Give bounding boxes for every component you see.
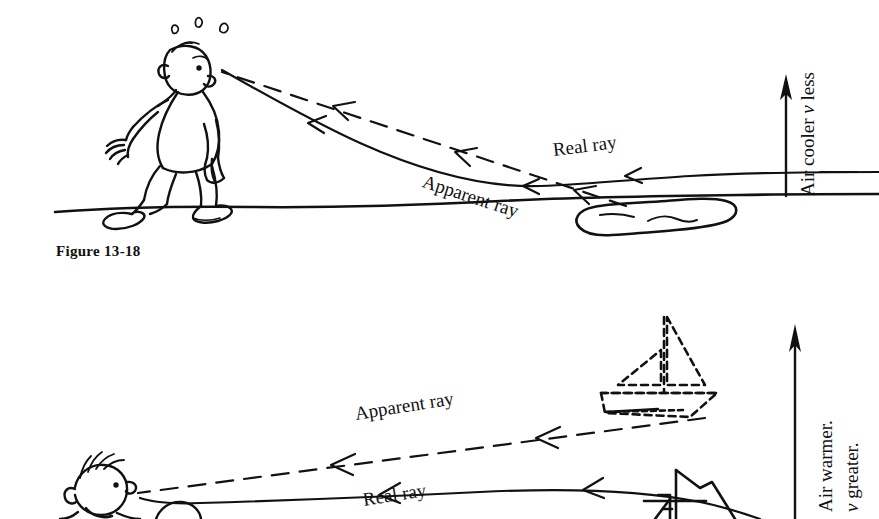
panel-sea-mirage bbox=[60, 317, 801, 519]
label-greater-text: greater. bbox=[841, 442, 862, 498]
weary-man-figure bbox=[103, 18, 232, 229]
figure-stage: Figure 13-18 Real ray Apparent ray Air c… bbox=[0, 0, 879, 519]
label-velocity-greater-bottom: v greater. bbox=[841, 442, 863, 512]
apparent-ray-arrowheads-bottom bbox=[331, 427, 560, 475]
mirage-puddle bbox=[576, 199, 736, 236]
dashed-sailboat bbox=[601, 317, 717, 417]
real-ray-path-top bbox=[222, 70, 879, 186]
boy-head-figure bbox=[60, 452, 201, 519]
label-less-text: less bbox=[797, 72, 818, 101]
label-velocity-symbol-top: v bbox=[797, 105, 818, 113]
gradient-arrow-bottom bbox=[789, 324, 801, 519]
solid-sailboat bbox=[644, 470, 735, 519]
label-air-cooler-text: Air cooler bbox=[797, 118, 818, 196]
label-air-gradient-top: Air cooler v less bbox=[797, 72, 819, 196]
figure-caption: Figure 13-18 bbox=[56, 243, 141, 260]
label-air-warmer-bottom: Air warmer. bbox=[815, 420, 837, 512]
gradient-arrow-top bbox=[780, 74, 792, 196]
label-velocity-symbol-bottom: v bbox=[841, 504, 862, 512]
